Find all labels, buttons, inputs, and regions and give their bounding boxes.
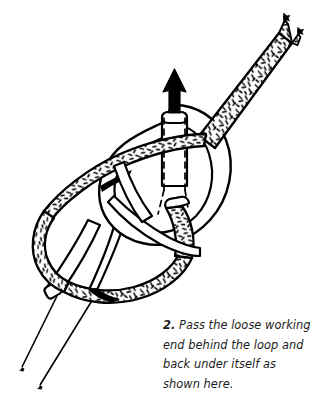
knot-illustration-figure: 2. Pass the loose working end behind the… (0, 0, 318, 411)
step-instruction-text: Pass the loose working end behind the lo… (163, 318, 311, 391)
step-number: 2. (163, 318, 175, 332)
step-caption: 2. Pass the loose working end behind the… (163, 316, 313, 394)
